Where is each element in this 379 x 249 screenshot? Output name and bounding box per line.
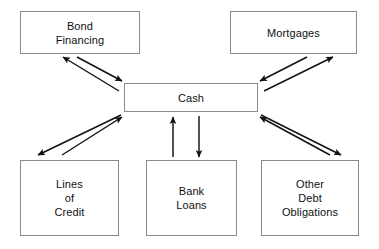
node-cash[interactable]: Cash <box>124 83 258 112</box>
node-cash-label: Cash <box>176 91 206 105</box>
node-lines-of-credit[interactable]: Lines of Credit <box>20 160 119 236</box>
node-other-debt-label: Other Debt Obligations <box>280 177 340 219</box>
arrow-mortgages-to-cash <box>260 57 307 81</box>
node-mortgages-label: Mortgages <box>265 26 322 40</box>
arrow-cash-to-other-debt <box>261 115 341 155</box>
node-other-debt[interactable]: Other Debt Obligations <box>261 160 359 236</box>
node-mortgages[interactable]: Mortgages <box>230 11 357 54</box>
node-bond-financing-label: Bond Financing <box>54 19 107 47</box>
arrow-cash-to-lines-of-credit <box>38 115 121 155</box>
node-lines-of-credit-label: Lines of Credit <box>53 177 87 219</box>
node-bank-loans[interactable]: Bank Loans <box>146 160 237 236</box>
node-bond-financing[interactable]: Bond Financing <box>20 11 140 54</box>
arrow-cash-to-bond-financing <box>63 57 119 91</box>
arrow-lines-of-credit-to-cash <box>62 117 122 155</box>
arrow-other-debt-to-cash <box>260 117 330 155</box>
node-bank-loans-label: Bank Loans <box>174 184 208 212</box>
diagram-canvas: Bond Financing Mortgages Cash Lines of C… <box>0 0 379 249</box>
